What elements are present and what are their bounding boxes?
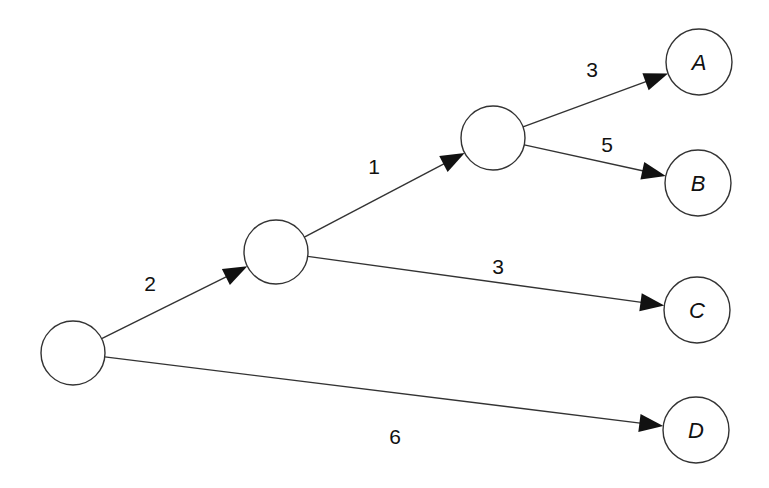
arrowhead-icon [639, 293, 664, 311]
edge-line [523, 80, 650, 127]
edge-root-to-n1 [102, 266, 248, 338]
edges-layer [102, 73, 668, 432]
arrowhead-icon [642, 73, 668, 90]
edge-root-to-D [105, 357, 663, 432]
node-label: B [691, 171, 706, 196]
node-C: C [664, 277, 730, 343]
chance-node-n1 [244, 220, 308, 284]
decision-tree-diagram: ABCD 213536 [0, 0, 769, 488]
edge-n1-to-n2 [304, 153, 464, 237]
edge-line [524, 145, 647, 172]
edge-weight-label: 5 [601, 133, 613, 156]
arrowhead-icon [222, 266, 247, 285]
edge-line [105, 357, 644, 424]
edge-line [102, 275, 231, 339]
edge-n2-to-A [523, 73, 668, 127]
arrowhead-icon [640, 162, 665, 180]
node-label: C [689, 298, 705, 323]
edge-weight-label: 6 [389, 425, 401, 448]
node-circle [244, 220, 308, 284]
edge-weight-label: 3 [492, 255, 504, 278]
node-circle [461, 106, 525, 170]
arrowhead-icon [638, 414, 663, 432]
node-circle [41, 321, 105, 385]
chance-node-n2 [461, 106, 525, 170]
node-B: B [665, 150, 731, 216]
edge-labels-layer: 213536 [144, 58, 613, 448]
node-A: A [666, 29, 732, 95]
arrowhead-icon [439, 153, 464, 172]
edge-line [308, 256, 646, 303]
node-label: D [688, 418, 704, 443]
edge-weight-label: 2 [144, 272, 156, 295]
edge-weight-label: 1 [368, 155, 380, 178]
nodes-layer: ABCD [41, 29, 732, 463]
edge-weight-label: 3 [586, 58, 598, 81]
chance-node-root [41, 321, 105, 385]
edge-n1-to-C [308, 256, 665, 311]
node-D: D [663, 397, 729, 463]
edge-n2-to-B [524, 145, 666, 180]
node-label: A [690, 50, 707, 75]
